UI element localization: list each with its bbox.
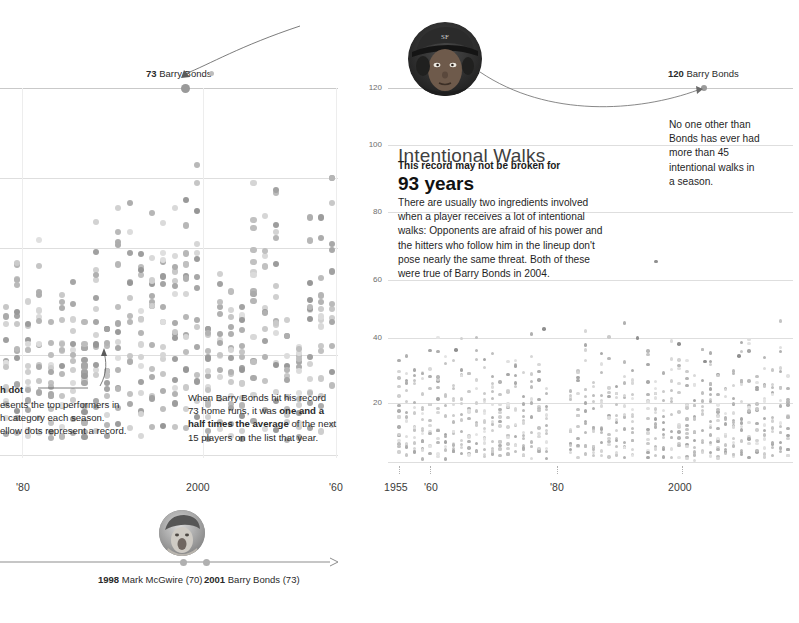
right-plot-dot [506, 436, 509, 439]
left-plot-dot [36, 364, 42, 370]
right-plot-dot [701, 391, 704, 394]
right-plot-dot [607, 395, 610, 398]
right-plot-dot [530, 385, 533, 388]
left-plot-dot [239, 317, 245, 323]
right-plot-dot [786, 415, 789, 418]
left-plot-dot [104, 386, 110, 392]
right-plot-dot [646, 417, 649, 420]
right-plot-dot [600, 371, 603, 374]
right-plot-dot [537, 432, 540, 435]
left-plot-dot [250, 225, 256, 231]
right-plot-dot [405, 445, 408, 448]
right-plot-dot [545, 387, 548, 390]
right-plot-dot [405, 389, 408, 392]
right-plot-dot [607, 386, 610, 389]
right-record-dot [701, 85, 707, 91]
right-plot-dot [670, 379, 673, 382]
right-plot-dot [413, 450, 416, 453]
right-plot-dot [436, 386, 439, 389]
right-plot-dot [584, 453, 587, 456]
left-plot-dot [36, 292, 42, 298]
left-plot-dot [172, 205, 178, 211]
left-plot-dot [194, 344, 200, 350]
right-plot-dot [724, 443, 727, 446]
right-plot-dot [405, 411, 408, 414]
right-plot-dot [740, 383, 743, 386]
right-plot-dot [709, 426, 712, 429]
right-plot-dot [491, 449, 494, 452]
right-plot-dot [405, 354, 408, 357]
right-plot-dot [421, 432, 424, 435]
left-plot-dot [329, 343, 335, 349]
right-plot-dot [460, 439, 463, 442]
left-plot-dot [149, 210, 155, 216]
left-plot-dot [284, 377, 290, 383]
right-plot-dot [631, 381, 634, 384]
right-plot-dot [498, 403, 501, 406]
right-plot-dot [732, 384, 735, 387]
right-plot-dot [584, 444, 587, 447]
left-plot-dot [228, 314, 234, 320]
left-plot-dot [172, 291, 178, 297]
left-record-dot [181, 84, 190, 93]
right-plot-dot [786, 437, 789, 440]
left-plot-dot [172, 320, 178, 326]
right-plot-dot [732, 402, 735, 405]
right-plot-dot [413, 368, 416, 371]
right-plot-dot [779, 431, 782, 434]
right-plot-dot [677, 425, 680, 428]
left-plot-dot [149, 293, 155, 299]
left-plot-dot [14, 355, 20, 361]
left-plot-dot [70, 358, 76, 364]
right-plot-dot [530, 415, 533, 418]
left-plot-dot [172, 335, 178, 341]
left-plot-dot [228, 324, 234, 330]
right-plot-dot [436, 375, 439, 378]
right-plot-dot [755, 449, 758, 452]
right-plot-dot [662, 371, 665, 374]
right-plot-dot [631, 427, 634, 430]
left-plot-dot [194, 241, 200, 247]
right-plot-dot [747, 456, 750, 459]
right-plot-dot [623, 375, 626, 378]
right-plot-dot [600, 352, 603, 355]
left-plot-dot [93, 272, 99, 278]
right-plot-dot [716, 448, 719, 451]
left-plot-dot [194, 250, 200, 256]
left-plot-dot [25, 379, 31, 385]
right-plot-dot [483, 448, 486, 451]
right-plot-dot [693, 399, 696, 402]
right-plot-dot [716, 415, 719, 418]
right-plot-dot [646, 400, 649, 403]
right-plot-dot [670, 357, 673, 360]
right-plot-dot [491, 375, 494, 378]
right-plot-dot [670, 447, 673, 450]
left-plot-dot [81, 362, 87, 368]
right-plot-outlier-dot [542, 327, 546, 331]
right-plot-dot [709, 363, 712, 366]
right-plot-dot [607, 357, 610, 360]
right-plot-dot [483, 421, 486, 424]
right-plot-dot [670, 389, 673, 392]
right-plot-dot [740, 417, 743, 420]
left-plot-dot [307, 354, 313, 360]
right-plot-dot [716, 440, 719, 443]
left-record-label: 73 Barry Bonds [146, 68, 212, 79]
right-plot-dot [506, 416, 509, 419]
right-plot-dot [444, 404, 447, 407]
left-plot-dot [70, 316, 76, 322]
right-plot-dot [584, 431, 587, 434]
left-plot-dot [48, 319, 54, 325]
right-plot-dot [576, 437, 579, 440]
left-plot-dot [172, 283, 178, 289]
left-plot-dot [115, 304, 121, 310]
right-plot-dot [467, 440, 470, 443]
left-eachdot-body: esents the top performers in h category … [0, 398, 160, 438]
right-plot-dot [740, 428, 743, 431]
left-plot-dot [48, 352, 54, 358]
right-xtick-mark-1955 [399, 466, 401, 474]
right-plot-dot [740, 379, 743, 382]
right-plot-dot [452, 420, 455, 423]
right-plot-dot [763, 455, 766, 458]
right-plot-dot [584, 395, 587, 398]
